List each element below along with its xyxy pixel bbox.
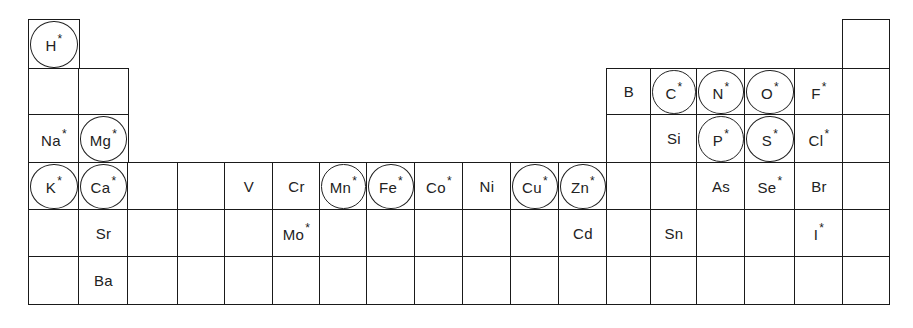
element-symbol: Cl* (809, 129, 830, 149)
asterisk-icon: * (724, 127, 729, 141)
empty-cell (78, 68, 129, 116)
empty-cell (127, 209, 179, 258)
element-symbol: Ca* (91, 176, 117, 196)
element-cell-mg: Mg* (78, 114, 129, 164)
empty-cell (842, 162, 890, 211)
element-cell-p: P* (696, 114, 746, 164)
element-symbol: K* (46, 176, 62, 196)
empty-cell (414, 209, 464, 258)
element-cell-sr: Sr (78, 209, 129, 258)
element-cell-ba: Ba (78, 256, 129, 305)
element-cell-co: Co* (414, 162, 464, 211)
element-cell-cd: Cd (558, 209, 608, 258)
element-symbol: B (624, 83, 634, 100)
empty-cell (224, 256, 274, 305)
element-cell-fe: Fe* (366, 162, 416, 211)
element-symbol: P* (713, 129, 729, 149)
empty-cell (414, 256, 464, 305)
asterisk-icon: * (590, 174, 595, 188)
element-cell-n: N* (696, 68, 746, 116)
element-cell-i: I* (794, 209, 844, 258)
element-cell-si: Si (650, 114, 698, 164)
asterisk-icon: * (725, 80, 730, 94)
empty-cell (510, 256, 560, 305)
asterisk-icon: * (352, 174, 357, 188)
empty-cell (842, 19, 890, 70)
empty-cell (744, 256, 796, 305)
element-cell-as: As (696, 162, 746, 211)
asterisk-icon: * (58, 32, 63, 46)
element-symbol: N* (712, 82, 729, 102)
element-symbol: Cu* (522, 176, 548, 196)
asterisk-icon: * (447, 174, 452, 188)
asterisk-icon: * (678, 80, 683, 94)
asterisk-icon: * (824, 127, 829, 141)
empty-cell (462, 256, 512, 305)
element-cell-s: S* (744, 114, 796, 164)
element-cell-h: H* (28, 19, 80, 70)
element-symbol: Cd (573, 225, 593, 242)
empty-cell (794, 256, 844, 305)
element-cell-na: Na* (28, 114, 80, 164)
element-symbol: Mo* (283, 223, 310, 243)
element-symbol: S* (762, 129, 778, 149)
element-cell-br: Br (794, 162, 844, 211)
empty-cell (842, 68, 890, 116)
asterisk-icon: * (819, 221, 824, 235)
element-cell-b: B (606, 68, 652, 116)
asterisk-icon: * (305, 221, 310, 235)
empty-cell (366, 256, 416, 305)
empty-cell (272, 256, 321, 305)
empty-cell (606, 162, 652, 211)
element-cell-sn: Sn (650, 209, 698, 258)
element-cell-zn: Zn* (558, 162, 608, 211)
element-symbol: Ba (94, 272, 113, 289)
asterisk-icon: * (774, 80, 779, 94)
element-symbol: Mn* (330, 176, 357, 196)
element-symbol: Zn* (571, 176, 595, 196)
empty-cell (842, 114, 890, 164)
element-cell-mn: Mn* (319, 162, 368, 211)
empty-cell (127, 256, 179, 305)
element-cell-ca: Ca* (78, 162, 129, 211)
element-symbol: H* (45, 34, 62, 54)
periodic-table: H*BC*N*O*F*Na*Mg*SiP*S*Cl*K*Ca*VCrMn*Fe*… (0, 0, 913, 328)
empty-cell (319, 209, 368, 258)
element-cell-cr: Cr (272, 162, 321, 211)
empty-cell (28, 256, 80, 305)
element-symbol: Mg* (90, 129, 117, 149)
empty-cell (177, 209, 226, 258)
element-cell-v: V (224, 162, 274, 211)
element-symbol: F* (811, 82, 826, 102)
element-symbol: Se* (758, 176, 783, 196)
element-cell-f: F* (794, 68, 844, 116)
element-cell-cl: Cl* (794, 114, 844, 164)
element-symbol: C* (665, 82, 682, 102)
element-symbol: Co* (426, 176, 452, 196)
empty-cell (744, 209, 796, 258)
asterisk-icon: * (822, 80, 827, 94)
element-cell-o: O* (744, 68, 796, 116)
empty-cell (650, 162, 698, 211)
asterisk-icon: * (57, 174, 62, 188)
element-symbol: I* (814, 223, 824, 243)
empty-cell (558, 256, 608, 305)
empty-cell (510, 209, 560, 258)
asterisk-icon: * (62, 127, 67, 141)
empty-cell (842, 256, 890, 305)
element-symbol: Cr (288, 178, 304, 195)
element-symbol: Fe* (379, 176, 403, 196)
asterisk-icon: * (111, 174, 116, 188)
element-symbol: As (712, 178, 730, 195)
empty-cell (28, 209, 80, 258)
empty-cell (842, 209, 890, 258)
empty-cell (462, 209, 512, 258)
empty-cell (28, 68, 80, 116)
element-cell-ni: Ni (462, 162, 512, 211)
element-symbol: O* (761, 82, 779, 102)
element-cell-mo: Mo* (272, 209, 321, 258)
asterisk-icon: * (773, 127, 778, 141)
element-cell-se: Se* (744, 162, 796, 211)
empty-cell (319, 256, 368, 305)
element-cell-c: C* (650, 68, 698, 116)
